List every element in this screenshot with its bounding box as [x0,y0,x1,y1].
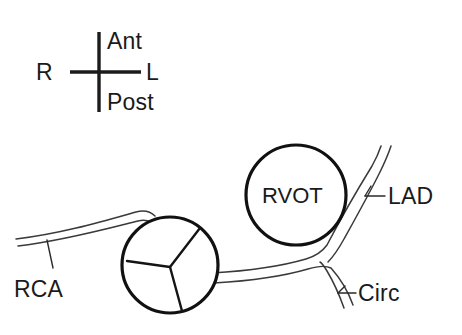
rca-label: RCA [14,276,64,302]
orientation-label-left: L [146,59,159,85]
orientation-label-anterior: Ant [107,28,143,54]
rca-leader-line [47,240,53,268]
lad-label: LAD [388,183,433,209]
rvot-label: RVOT [262,183,323,208]
circ-leader-tick [338,286,345,293]
circ-label: Circ [358,280,400,306]
anatomic-diagram-figure: Ant Post R L RCA LAD [0,0,462,335]
diagram-canvas: Ant Post R L RCA LAD [0,0,462,335]
orientation-label-posterior: Post [107,89,154,115]
aortic-valve-circle [122,217,218,313]
orientation-label-right: R [36,59,53,85]
